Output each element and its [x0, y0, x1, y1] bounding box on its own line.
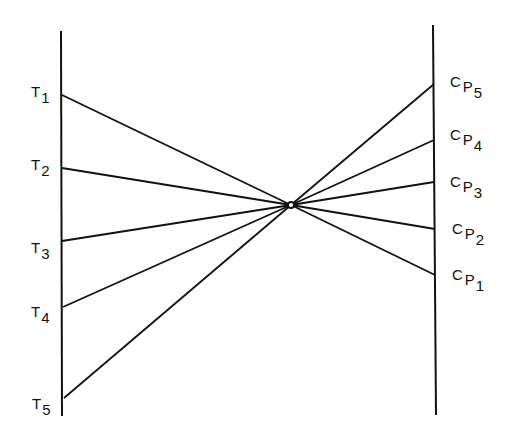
label-cp5-c: C — [450, 74, 461, 89]
label-t1-main: T — [31, 84, 40, 99]
label-t3: T3 — [31, 240, 50, 255]
connector-cp3 — [291, 182, 434, 205]
label-t4-sub: 4 — [41, 310, 49, 325]
label-cp2-p: P — [465, 226, 475, 241]
label-cp5-sub: 5 — [474, 85, 482, 100]
label-cp2-sub: 2 — [476, 232, 484, 247]
label-cp3: CP3 — [450, 174, 482, 189]
center-crossing-node — [288, 202, 294, 208]
connector-t1 — [62, 95, 291, 205]
connector-t3 — [62, 205, 291, 241]
label-cp4-sub: 4 — [474, 138, 482, 153]
label-cp1-p: P — [465, 272, 475, 287]
label-t2-main: T — [31, 157, 40, 172]
label-cp3-sub: 3 — [474, 185, 482, 200]
connector-cp4 — [291, 140, 434, 205]
label-t4: T4 — [31, 304, 50, 319]
connector-cp2 — [291, 205, 435, 229]
diagram-lines — [0, 0, 508, 434]
connector-t2 — [62, 168, 291, 205]
label-cp2: CP2 — [452, 221, 484, 236]
label-cp5: CP5 — [450, 74, 482, 89]
label-t1-sub: 1 — [41, 90, 49, 105]
label-t3-sub: 3 — [41, 246, 49, 261]
label-cp5-p: P — [463, 79, 473, 94]
left-axis-line — [61, 31, 62, 416]
label-t5-main: T — [32, 396, 41, 411]
label-cp1-sub: 1 — [476, 278, 484, 293]
label-t1: T1 — [31, 84, 50, 99]
connector-cp1 — [291, 205, 435, 275]
label-cp1-c: C — [452, 267, 463, 282]
label-t5-sub: 5 — [42, 402, 50, 417]
label-t3-main: T — [31, 240, 40, 255]
label-t2-sub: 2 — [41, 163, 49, 178]
connector-lines — [62, 84, 435, 398]
label-t5: T5 — [32, 396, 51, 411]
label-cp4-p: P — [463, 132, 473, 147]
label-cp4-c: C — [450, 127, 461, 142]
crossing-diagram: T1 T2 T3 T4 T5 CP5 CP4 CP3 CP2 CP1 — [0, 0, 508, 434]
label-t4-main: T — [31, 304, 40, 319]
label-cp2-c: C — [452, 221, 463, 236]
connector-cp5 — [291, 84, 434, 205]
label-t2: T2 — [31, 157, 50, 172]
label-cp3-p: P — [463, 179, 473, 194]
label-cp1: CP1 — [452, 267, 484, 282]
connector-t5 — [64, 205, 291, 398]
label-cp4: CP4 — [450, 127, 482, 142]
connector-t4 — [63, 205, 291, 307]
label-cp3-c: C — [450, 174, 461, 189]
